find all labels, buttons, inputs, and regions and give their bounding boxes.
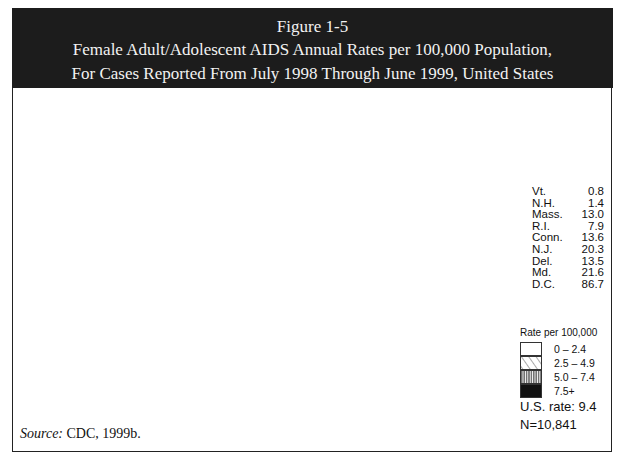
- ne-abbr: D.C.: [532, 279, 555, 291]
- ne-abbr: Vt.: [532, 186, 546, 198]
- ne-row: Md.21.6: [532, 267, 604, 279]
- legend-label: 2.5 – 4.9: [554, 357, 595, 369]
- legend-swatch-white: [520, 342, 542, 356]
- legend-swatch-diagonal: [520, 356, 542, 370]
- ne-row: N.J.20.3: [532, 244, 604, 256]
- source-label: Source:: [20, 426, 63, 441]
- legend-swatch-black: [520, 384, 542, 398]
- ne-abbr: Md.: [532, 267, 551, 279]
- ne-value: 0.8: [588, 186, 604, 198]
- legend-title: Rate per 100,000: [520, 327, 597, 338]
- legend-label: 5.0 – 7.4: [554, 371, 595, 383]
- ne-row: D.C.86.7: [532, 279, 604, 291]
- legend-label: 7.5+: [554, 385, 575, 397]
- legend-item-mid-low: 2.5 – 4.9: [520, 356, 597, 370]
- source-note: Source: CDC, 1999b.: [20, 426, 141, 442]
- ne-value: 86.7: [582, 279, 604, 291]
- legend-item-mid-high: 5.0 – 7.4: [520, 370, 597, 384]
- ne-value: 21.6: [582, 267, 604, 279]
- us-rate: U.S. rate: 9.4: [520, 398, 597, 416]
- source-text: CDC, 1999b.: [63, 426, 141, 441]
- ne-abbr: N.J.: [532, 244, 552, 256]
- ne-row: Vt.0.8: [532, 186, 604, 198]
- summary-stats: U.S. rate: 9.4 N=10,841: [520, 398, 597, 434]
- ne-value: 20.3: [582, 244, 604, 256]
- legend-label: 0 – 2.4: [554, 343, 586, 355]
- map-legend: Rate per 100,000 0 – 2.4 2.5 – 4.9 5.0 –…: [520, 327, 597, 398]
- legend-swatch-vertical: [520, 370, 542, 384]
- northeast-rate-table: Vt.0.8 N.H.1.4 Mass.13.0 R.I.7.9 Conn.13…: [532, 186, 604, 290]
- legend-item-high: 7.5+: [520, 384, 597, 398]
- legend-item-low: 0 – 2.4: [520, 342, 597, 356]
- case-count: N=10,841: [520, 416, 597, 434]
